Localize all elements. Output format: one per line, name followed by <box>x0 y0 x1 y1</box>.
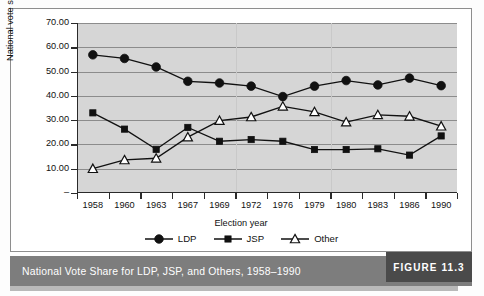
figure-page: National vote share 70.0060.0050.0040.00… <box>0 0 484 296</box>
data-point-filled-circle <box>310 82 319 91</box>
x-tick-mark <box>235 193 236 199</box>
x-tick-label: 1986 <box>393 201 427 210</box>
x-tick-mark <box>425 193 426 199</box>
y-tick-label: 30.00 <box>23 115 69 124</box>
data-point-filled-circle <box>152 63 161 72</box>
data-point-filled-square <box>343 146 349 152</box>
data-point-filled-square <box>280 138 286 144</box>
data-point-filled-square <box>438 133 444 139</box>
data-point-filled-circle <box>374 81 383 90</box>
data-point-filled-circle <box>405 74 414 83</box>
legend-item-jsp[interactable]: JSP <box>213 233 265 245</box>
data-point-filled-square <box>121 126 127 132</box>
data-point-filled-circle <box>279 92 288 101</box>
data-point-filled-circle <box>342 76 351 85</box>
data-series-layer <box>77 23 457 193</box>
caption-text: National Vote Share for LDP, JSP, and Ot… <box>22 266 301 277</box>
y-tick-label: 40.00 <box>23 91 69 100</box>
y-tick-label: 70.00 <box>23 18 69 27</box>
legend-label: Other <box>314 234 338 244</box>
x-tick-mark <box>77 193 78 199</box>
data-point-filled-circle <box>120 54 129 63</box>
legend-item-other[interactable]: Other <box>280 233 338 245</box>
x-tick-mark <box>299 193 300 199</box>
data-point-filled-square <box>311 146 317 152</box>
chart-legend: LDPJSPOther <box>11 233 471 245</box>
data-point-filled-square <box>375 146 381 152</box>
data-point-filled-square <box>153 146 159 152</box>
x-tick-mark <box>267 193 268 199</box>
data-point-filled-circle <box>247 82 256 91</box>
caption-bar: National Vote Share for LDP, JSP, and Ot… <box>10 256 472 286</box>
x-tick-mark <box>109 193 110 199</box>
x-tick-label: 1960 <box>108 201 142 210</box>
data-point-filled-circle <box>215 79 224 88</box>
series-jsp <box>90 110 445 158</box>
data-point-filled-circle <box>184 77 193 86</box>
x-tick-mark <box>394 193 395 199</box>
x-tick-label: 1963 <box>139 201 173 210</box>
x-tick-label: 1967 <box>171 201 205 210</box>
legend-label: JSP <box>247 234 265 244</box>
x-tick-label: 1990 <box>424 201 458 210</box>
data-point-open-triangle <box>278 102 287 110</box>
y-tick-label: 60.00 <box>23 42 69 51</box>
y-tick-label: – <box>23 188 69 197</box>
data-point-filled-circle <box>89 51 98 60</box>
figure-number-badge: FIGURE 11.3 <box>386 252 472 282</box>
data-point-filled-square <box>406 152 412 158</box>
x-tick-mark <box>204 193 205 199</box>
data-point-filled-square <box>216 138 222 144</box>
legend-marker-open-triangle <box>280 233 310 245</box>
data-point-filled-square <box>224 236 230 242</box>
y-tick-label: 20.00 <box>23 139 69 148</box>
x-axis-title: Election year <box>11 218 471 228</box>
series-line <box>93 55 441 97</box>
x-tick-label: 1958 <box>76 201 110 210</box>
x-tick-mark <box>362 193 363 199</box>
data-point-filled-square <box>90 110 96 116</box>
plot-wrapper: National vote share 70.0060.0050.0040.00… <box>11 9 471 251</box>
series-other <box>88 102 446 173</box>
legend-marker-filled-circle <box>144 233 174 245</box>
data-point-filled-square <box>248 136 254 142</box>
legend-item-ldp[interactable]: LDP <box>144 233 197 245</box>
series-ldp <box>89 51 446 101</box>
x-tick-label: 1979 <box>298 201 332 210</box>
x-tick-mark <box>457 193 458 199</box>
x-tick-label: 1972 <box>234 201 268 210</box>
y-tick-label: 10.00 <box>23 164 69 173</box>
data-point-filled-circle <box>155 235 164 244</box>
y-tick-label: 50.00 <box>23 67 69 76</box>
x-tick-label: 1983 <box>361 201 395 210</box>
data-point-open-triangle <box>183 133 192 141</box>
x-tick-label: 1980 <box>329 201 363 210</box>
x-tick-label: 1969 <box>203 201 237 210</box>
legend-marker-filled-square <box>213 233 243 245</box>
chart-figure: National vote share 70.0060.0050.0040.00… <box>10 8 472 252</box>
series-line <box>93 106 441 168</box>
x-tick-mark <box>140 193 141 199</box>
data-point-filled-square <box>185 124 191 130</box>
data-point-filled-circle <box>437 81 446 90</box>
y-axis-labels: 70.0060.0050.0040.0030.0020.0010.00– <box>11 9 69 209</box>
x-tick-mark <box>172 193 173 199</box>
legend-label: LDP <box>178 234 197 244</box>
x-tick-label: 1976 <box>266 201 300 210</box>
x-tick-mark <box>330 193 331 199</box>
series-line <box>93 113 441 155</box>
